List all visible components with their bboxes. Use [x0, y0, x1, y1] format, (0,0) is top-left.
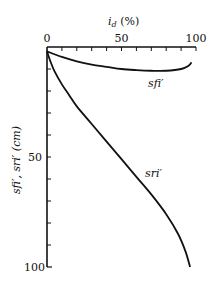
y-axis: 50 100 sfi′, sri′ (cm) — [10, 47, 52, 274]
series-sfi-line — [47, 51, 192, 71]
series-sfi-label: sfi′ — [148, 77, 164, 90]
series-sri-line — [47, 51, 190, 267]
x-tick-100: 100 — [186, 32, 207, 45]
x-tick-0: 0 — [44, 32, 51, 45]
series-sri-label: sri′ — [145, 167, 162, 180]
x-axis-title: id (%) — [108, 15, 139, 29]
y-tick-50: 50 — [28, 151, 42, 164]
y-axis-title: sfi′, sri′ (cm) — [10, 126, 23, 194]
x-tick-50: 50 — [115, 32, 129, 45]
y-tick-100: 100 — [24, 261, 45, 274]
chart: 0 50 100 id (%) 50 100 sfi′, sri′ (cm) s… — [0, 0, 211, 284]
x-axis: 0 50 100 id (%) — [44, 15, 207, 51]
